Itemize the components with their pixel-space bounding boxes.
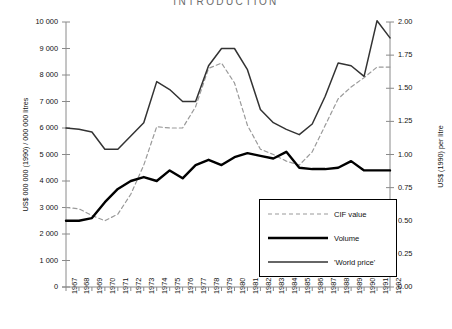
legend-label-cif-value: CIF value [334, 210, 367, 219]
series-line-world-price [66, 21, 390, 150]
chart-container: INTRODUCTION US$ 000 000 (1990) / 000 00… [0, 0, 452, 329]
plot-area [0, 0, 452, 329]
legend-label-world-price: 'World price' [334, 258, 375, 267]
chart-legend: CIF value Volume 'World price' [259, 199, 397, 277]
legend-item-volume: Volume [268, 231, 390, 245]
legend-item-world-price: 'World price' [268, 255, 390, 269]
series-line-cif-value [66, 63, 390, 221]
legend-label-volume: Volume [334, 234, 359, 243]
series-lines [66, 21, 390, 221]
legend-item-cif-value: CIF value [268, 207, 390, 221]
legend-swatch-world-price [268, 259, 328, 265]
legend-swatch-volume [268, 235, 328, 241]
legend-swatch-cif-value [268, 211, 328, 217]
